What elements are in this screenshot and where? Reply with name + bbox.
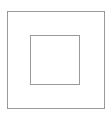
inner-square (30, 35, 80, 85)
